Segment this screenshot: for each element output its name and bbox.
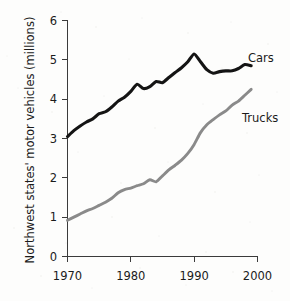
x-tick-label-2000: 2000 bbox=[243, 269, 272, 283]
x-tick-label-1970: 1970 bbox=[53, 269, 82, 283]
y-tick-label-2: 2 bbox=[50, 171, 57, 185]
y-tick-label-6: 6 bbox=[50, 14, 57, 28]
y-tick-label-3: 3 bbox=[50, 132, 57, 146]
series-label-cars: Cars bbox=[248, 51, 274, 65]
plot-area: 6 5 4 3 2 1 0 1970 1980 1990 2000 Cars T… bbox=[0, 0, 290, 301]
x-axis-ticks bbox=[68, 257, 258, 263]
y-tick-label-5: 5 bbox=[50, 53, 57, 67]
y-tick-label-1: 1 bbox=[50, 210, 57, 224]
series-line-trucks bbox=[68, 89, 252, 220]
series-label-trucks: Trucks bbox=[241, 111, 278, 125]
y-tick-label-0: 0 bbox=[50, 250, 57, 264]
series-line-cars bbox=[68, 54, 252, 137]
x-tick-label-1980: 1980 bbox=[116, 269, 145, 283]
x-tick-label-1990: 1990 bbox=[180, 269, 209, 283]
motor-vehicles-line-chart: 6 5 4 3 2 1 0 1970 1980 1990 2000 Cars T… bbox=[0, 0, 290, 301]
y-tick-label-4: 4 bbox=[50, 92, 57, 106]
y-axis-title: Northwest states' motor vehicles (millio… bbox=[23, 15, 37, 265]
